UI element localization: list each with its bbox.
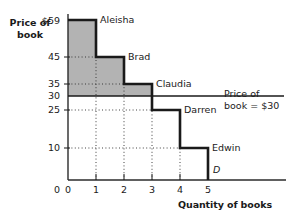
y-tick-35: 35	[26, 79, 60, 89]
y-tick-30: 30	[26, 91, 60, 101]
step-label-claudia: Claudia	[156, 79, 192, 89]
demand-curve-label: D	[213, 165, 220, 175]
step-label-darren: Darren	[184, 105, 216, 115]
market-price-line1: Price of	[224, 88, 259, 99]
market-price-line2: book = $30	[224, 100, 279, 111]
consumer-surplus-chart: Price of book Quantity of books $59 45 3…	[0, 0, 286, 218]
y-tick-10: 10	[26, 143, 60, 153]
step-label-aleisha: Aleisha	[100, 15, 134, 25]
y-tick-25: 25	[26, 105, 60, 115]
x-tick-1: 1	[88, 185, 104, 195]
y-tick-45: 45	[26, 52, 60, 62]
step-label-brad: Brad	[128, 52, 150, 62]
x-tick-5: 5	[200, 185, 216, 195]
x-axis-title: Quantity of books	[178, 200, 272, 210]
market-price-annotation: Price of book = $30	[224, 88, 279, 111]
x-tick-0: 0	[60, 185, 76, 195]
x-tick-3: 3	[144, 185, 160, 195]
y-tick-59: $59	[26, 16, 60, 26]
y-axis-title-line2: book	[17, 29, 43, 40]
x-tick-2: 2	[116, 185, 132, 195]
y-tick-0: 0	[26, 185, 60, 195]
step-label-edwin: Edwin	[212, 143, 240, 153]
x-tick-4: 4	[172, 185, 188, 195]
